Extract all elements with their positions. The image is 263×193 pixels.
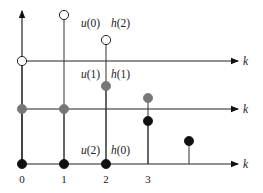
x-tick-label: 1 <box>61 173 67 185</box>
open-sample-point <box>101 35 110 44</box>
annotation-u0: u(0) <box>81 17 100 30</box>
x-tick-label: 3 <box>145 173 151 185</box>
annotation-h2: h(2) <box>111 17 130 30</box>
open-sample-point <box>17 56 26 65</box>
open-sample-point <box>59 10 68 19</box>
black-sample-point <box>59 159 68 168</box>
gray-sample-point <box>143 93 152 102</box>
black-sample-point <box>184 136 193 145</box>
annotation-u2: u(2) <box>81 144 100 157</box>
annotation-u1: u(1) <box>81 68 100 81</box>
axis-label-k: k <box>243 55 249 67</box>
gray-sample-point <box>17 104 26 113</box>
axes <box>22 11 238 164</box>
annotation-h1: h(1) <box>111 68 130 81</box>
black-sample-point <box>143 116 152 125</box>
black-sample-point <box>17 159 26 168</box>
stems <box>17 10 193 168</box>
convolution-stem-diagram: kkk0123u(0)h(2)u(1)h(1)u(2)h(0) <box>0 0 263 193</box>
x-tick-label: 2 <box>103 173 109 185</box>
gray-sample-point <box>101 81 110 90</box>
gray-sample-point <box>59 104 68 113</box>
annotation-h0: h(0) <box>111 144 130 157</box>
x-tick-label: 0 <box>19 173 25 185</box>
axis-label-k: k <box>243 103 249 115</box>
axis-label-k: k <box>243 158 249 170</box>
black-sample-point <box>101 159 110 168</box>
labels: kkk0123u(0)h(2)u(1)h(1)u(2)h(0) <box>19 17 249 185</box>
